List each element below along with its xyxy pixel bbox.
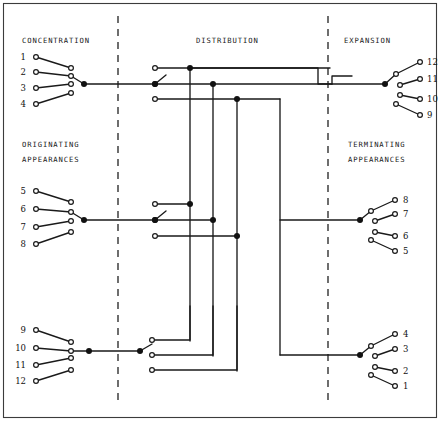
pivot-dist-middle: [152, 217, 158, 223]
expansion-group-top: [385, 62, 420, 115]
terminal-label-right-9: 9: [427, 110, 432, 120]
terminal-label-left-3: 3: [6, 83, 26, 93]
terminal-label-right-10: 10: [427, 94, 438, 104]
terminal-label-left-1: 1: [6, 52, 26, 62]
line-in-4: [36, 93, 71, 104]
terminal-label-left-6: 6: [6, 204, 26, 214]
line-in-9: [36, 330, 71, 342]
field-dividers: [118, 16, 328, 406]
line-in-2: [36, 72, 71, 76]
dot-t2-mid: [210, 217, 216, 223]
concentration-group-middle: [36, 191, 155, 244]
line-out-11: [400, 79, 420, 85]
terminal-label-right-11: 11: [427, 74, 438, 84]
line-in-5: [36, 191, 71, 202]
open-contacts: [34, 55, 423, 389]
terminal-label-left-11: 11: [2, 360, 26, 370]
label-terminating: TERMINATING: [348, 140, 406, 149]
label-distribution: DISTRIBUTION: [196, 36, 259, 45]
line-out-5: [371, 240, 395, 251]
terminal-label-left-7: 7: [6, 222, 26, 232]
line-out-3: [375, 349, 395, 356]
pivot-expansion: [382, 81, 388, 87]
dot-t2-top: [210, 81, 216, 87]
label-terminating-line2: APPEARANCES: [348, 155, 406, 164]
terminating-group-middle: [360, 200, 395, 251]
line-out-6: [375, 232, 395, 236]
label-concentration: CONCENTRATION: [22, 36, 90, 45]
pivot-middle-left: [81, 217, 87, 223]
line-in-10: [36, 348, 71, 351]
line-out-9: [396, 104, 420, 115]
schematic-svg: [0, 0, 440, 421]
line-in-12: [36, 370, 71, 381]
line-in-11: [36, 358, 71, 365]
line-out-8: [371, 200, 395, 211]
terminal-label-right-1: 1: [403, 381, 408, 391]
terminal-label-left-10: 10: [2, 343, 26, 353]
pivot-bottom-left: [86, 348, 92, 354]
terminal-label-right-3: 3: [403, 344, 408, 354]
pivot-dist-top: [152, 81, 158, 87]
line-in-1: [36, 57, 71, 68]
concentration-group-top: [36, 57, 155, 104]
distribution-switch-bottom: [140, 306, 237, 370]
dot-t3-mid: [234, 233, 240, 239]
terminal-label-right-12: 12: [427, 57, 438, 67]
line-out-7: [375, 214, 395, 221]
pivot-dist-bottom: [137, 348, 143, 354]
terminal-label-left-9: 9: [2, 325, 26, 335]
pivot-term-middle: [357, 217, 363, 223]
terminal-label-right-8: 8: [403, 195, 408, 205]
diagram-canvas: CONCENTRATION DISTRIBUTION EXPANSION ORI…: [0, 0, 440, 421]
dot-t3-top: [234, 96, 240, 102]
pivot-term-bottom: [357, 352, 363, 358]
terminal-label-right-7: 7: [403, 209, 408, 219]
terminal-label-right-5: 5: [403, 246, 408, 256]
label-expansion: EXPANSION: [344, 36, 391, 45]
line-out-2: [375, 367, 395, 371]
distribution-switch-middle: [155, 204, 237, 236]
distribution-switch-top: [155, 68, 332, 99]
terminal-label-left-5: 5: [6, 186, 26, 196]
label-originating: ORIGINATING: [22, 140, 80, 149]
terminal-label-left-8: 8: [6, 239, 26, 249]
line-in-7: [36, 221, 71, 227]
terminal-label-left-4: 4: [6, 99, 26, 109]
junction-dots: [81, 65, 388, 358]
terminal-label-left-12: 12: [2, 376, 26, 386]
pivot-top-left: [81, 81, 87, 87]
dot-t1-mid: [187, 201, 193, 207]
dist-row-1-bot: [152, 306, 190, 340]
line-out-4: [371, 334, 395, 346]
terminal-label-right-4: 4: [403, 329, 408, 339]
dist-row-3-bot: [152, 306, 237, 370]
line-out-1: [371, 375, 395, 386]
terminal-label-right-6: 6: [403, 231, 408, 241]
route-to-expansion: [190, 68, 385, 84]
dot-t1-top: [187, 65, 193, 71]
line-in-8: [36, 232, 71, 244]
line-out-12: [396, 62, 420, 74]
terminal-label-right-2: 2: [403, 366, 408, 376]
terminal-label-left-2: 2: [6, 67, 26, 77]
dist-top-row2-jog: [332, 76, 352, 84]
line-in-3: [36, 84, 71, 88]
line-out-10: [400, 95, 420, 99]
dist-row-2-bot: [152, 306, 213, 355]
terminating-group-bottom: [360, 334, 395, 386]
label-originating-line2: APPEARANCES: [22, 155, 80, 164]
line-in-6: [36, 209, 71, 212]
concentration-group-bottom: [36, 330, 140, 381]
